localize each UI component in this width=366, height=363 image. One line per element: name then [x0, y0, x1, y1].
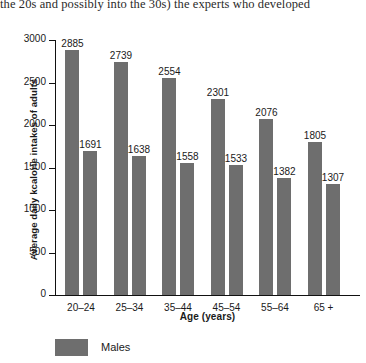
- bar-group: 27391638: [114, 40, 146, 295]
- bar-value-label: 2885: [61, 38, 83, 49]
- y-axis-tick-mark: [49, 125, 55, 126]
- bar-females: 1533: [229, 165, 243, 295]
- x-axis-title: Age (years): [55, 311, 360, 322]
- chart-legend: Males: [55, 334, 130, 360]
- bar-females: 1382: [277, 178, 291, 295]
- y-axis-line: [55, 40, 56, 295]
- bar-value-label: 1638: [128, 144, 150, 155]
- y-axis-tick-label: 2000: [24, 118, 46, 129]
- y-axis-tick-label: 2500: [24, 76, 46, 87]
- bar-value-label: 1382: [273, 166, 295, 177]
- page-excerpt-text: the 20s and possibly into the 30s) the e…: [0, 0, 366, 12]
- bar-group: 18051307: [308, 40, 340, 295]
- y-axis-tick-mark: [49, 295, 55, 296]
- bar-chart: Average daily kcalorie intakes of adults…: [0, 14, 366, 324]
- bar-females: 1691: [83, 151, 97, 295]
- bar-value-label: 1558: [176, 151, 198, 162]
- bar-value-label: 2076: [255, 107, 277, 118]
- bar-value-label: 2554: [158, 66, 180, 77]
- y-axis-tick-label: 1000: [24, 203, 46, 214]
- legend-label: Males: [101, 341, 130, 353]
- bar-females: 1558: [180, 163, 194, 295]
- y-axis-tick-label: 1500: [24, 161, 46, 172]
- bar-value-label: 2301: [207, 87, 229, 98]
- bar-value-label: 2739: [110, 50, 132, 61]
- y-axis-tick-mark: [49, 83, 55, 84]
- bar-value-label: 1805: [304, 130, 326, 141]
- bar-males: 2301: [211, 99, 225, 295]
- bar-males: 2885: [65, 50, 79, 295]
- y-axis-tick-label: 500: [29, 246, 46, 257]
- bar-males: 2739: [114, 62, 128, 295]
- bar-females: 1307: [326, 184, 340, 295]
- y-axis-tick-mark: [49, 168, 55, 169]
- legend-item: Males: [55, 339, 130, 356]
- y-axis-tick-mark: [49, 210, 55, 211]
- y-axis-tick-mark: [49, 253, 55, 254]
- bar-males: 2554: [162, 78, 176, 295]
- bar-males: 1805: [308, 142, 322, 295]
- y-axis-tick-mark: [49, 40, 55, 41]
- legend-swatch: [55, 339, 88, 356]
- bar-group: 20761382: [259, 40, 291, 295]
- bar-group: 25541558: [162, 40, 194, 295]
- x-axis-line: [55, 295, 360, 296]
- bar-value-label: 1307: [322, 172, 344, 183]
- bar-females: 1638: [132, 156, 146, 295]
- bar-value-label: 1533: [225, 153, 247, 164]
- plot-area: 050010001500200025003000 288516912739163…: [55, 40, 360, 295]
- bar-males: 2076: [259, 119, 273, 295]
- y-axis-tick-label: 0: [40, 288, 46, 299]
- bar-value-label: 1691: [79, 139, 101, 150]
- y-axis-tick-label: 3000: [24, 33, 46, 44]
- bar-group: 28851691: [65, 40, 97, 295]
- bar-group: 23011533: [211, 40, 243, 295]
